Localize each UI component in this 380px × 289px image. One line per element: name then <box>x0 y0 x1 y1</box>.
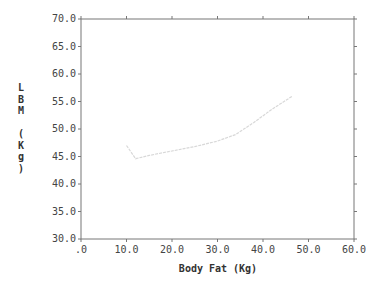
x-tick-label: .0 <box>75 244 87 255</box>
series-line <box>127 96 293 159</box>
y-tick-label: 40.0 <box>52 178 76 189</box>
x-tick-label: 20.0 <box>160 244 184 255</box>
y-axis-ticks: 30.035.040.045.050.055.060.065.070.0 <box>52 13 357 244</box>
y-tick-label: 70.0 <box>52 13 76 24</box>
y-tick-label: 60.0 <box>52 68 76 79</box>
x-tick-label: 40.0 <box>251 244 275 255</box>
y-axis-title-char: ( <box>18 128 24 139</box>
y-tick-label: 45.0 <box>52 151 76 162</box>
y-tick-label: 35.0 <box>52 206 76 217</box>
y-tick-label: 55.0 <box>52 96 76 107</box>
plot-border <box>81 19 354 239</box>
x-tick-label: 30.0 <box>205 244 229 255</box>
plot-frame <box>81 19 354 239</box>
y-tick-label: 30.0 <box>52 233 76 244</box>
y-axis-title: LBM(Kg) <box>18 82 24 174</box>
y-axis-title-char: K <box>18 140 24 151</box>
chart: .010.020.030.040.050.060.0 30.035.040.04… <box>0 0 380 289</box>
y-axis-title-char: L <box>18 82 24 93</box>
x-axis-ticks: .010.020.030.040.050.060.0 <box>75 16 366 255</box>
y-tick-label: 65.0 <box>52 41 76 52</box>
y-axis-title-char: g <box>18 151 24 162</box>
y-axis-title-char: ) <box>18 163 24 174</box>
data-series <box>127 96 293 159</box>
x-tick-label: 50.0 <box>296 244 320 255</box>
x-tick-label: 60.0 <box>342 244 366 255</box>
y-tick-label: 50.0 <box>52 123 76 134</box>
y-axis-title-char: B <box>18 94 24 105</box>
x-axis-title: Body Fat (Kg) <box>179 263 257 274</box>
x-tick-label: 10.0 <box>114 244 138 255</box>
y-axis-title-char: M <box>18 105 24 116</box>
